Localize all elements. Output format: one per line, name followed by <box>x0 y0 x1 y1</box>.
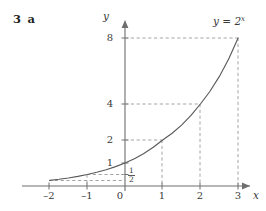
figure-container: 3 a y x y = 2x 8 4 2 1 1 2 –2 –1 0 1 2 3 <box>0 0 266 211</box>
question-label: 3 a <box>13 12 36 26</box>
x-tick-label-2: 2 <box>194 190 206 201</box>
axes-group <box>22 20 250 191</box>
x-axis-label: x <box>251 189 261 201</box>
y-tick-label-2: 2 <box>103 134 117 145</box>
fraction-denominator: 2 <box>128 176 135 184</box>
x-axis-arrowhead <box>242 183 250 190</box>
x-tick-label-0: 0 <box>114 190 126 201</box>
x-tick-label--2: –2 <box>41 190 57 201</box>
y-axis-arrowhead <box>122 20 129 28</box>
function-label-exponent: x <box>241 15 245 23</box>
x-tick-label-1: 1 <box>156 190 168 201</box>
exponential-curve <box>50 38 239 180</box>
y-axis-label: y <box>101 10 111 22</box>
fraction-numerator: 1 <box>128 167 135 175</box>
y-tick-label-8: 8 <box>103 32 117 43</box>
function-label: y = 2x <box>213 15 245 27</box>
guide-lines-group <box>49 38 238 186</box>
y-tick-label-1: 1 <box>103 157 117 168</box>
x-tick-label-3: 3 <box>232 190 244 201</box>
y-tick-label-half: 1 2 <box>128 167 135 184</box>
function-label-base: y = 2 <box>213 15 241 27</box>
x-tick-label--1: –1 <box>79 190 95 201</box>
y-tick-label-4: 4 <box>103 98 117 109</box>
